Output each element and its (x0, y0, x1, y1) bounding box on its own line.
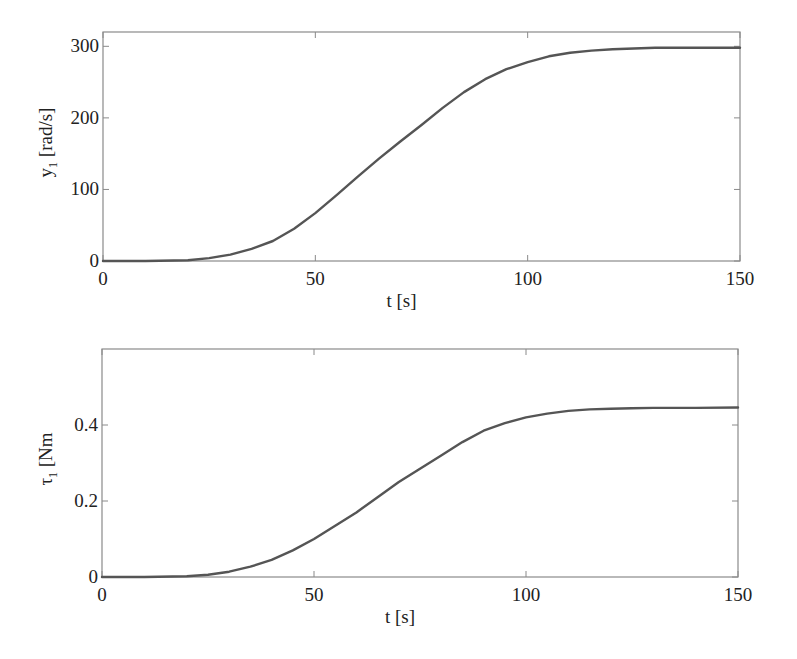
axes-box (103, 32, 740, 261)
x-axis-label: t [s] (386, 290, 416, 311)
axes-box (102, 349, 738, 577)
y-axis-label: τ1 [Nm (35, 432, 60, 485)
y-tick-label: 0.4 (74, 414, 98, 435)
bottom-plot: 05010015000.20.4t [s]τ1 [Nm (35, 349, 752, 627)
series-line-y1 (103, 48, 740, 261)
x-tick-label: 100 (513, 268, 542, 289)
y-tick-label: 100 (71, 178, 100, 199)
y-tick-label: 300 (71, 35, 100, 56)
figure: 0501001500100200300t [s]y1 [rad/s]050100… (0, 0, 797, 659)
x-tick-label: 50 (306, 268, 325, 289)
y-tick-label: 0 (89, 566, 99, 587)
x-tick-label: 0 (98, 268, 108, 289)
series-line-tau1 (102, 408, 738, 578)
x-axis-label: t [s] (385, 606, 415, 627)
x-tick-label: 100 (512, 584, 541, 605)
y-axis-label: y1 [rad/s] (35, 108, 60, 178)
y-tick-label: 200 (71, 107, 100, 128)
y-tick-label: 0 (90, 250, 100, 271)
y-tick-label: 0.2 (74, 490, 98, 511)
x-tick-label: 150 (726, 268, 755, 289)
x-tick-label: 150 (724, 584, 753, 605)
x-tick-label: 0 (97, 584, 107, 605)
x-tick-label: 50 (305, 584, 324, 605)
top-plot: 0501001500100200300t [s]y1 [rad/s] (35, 32, 754, 311)
